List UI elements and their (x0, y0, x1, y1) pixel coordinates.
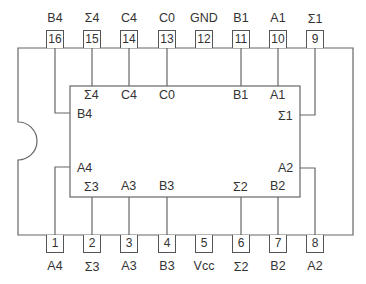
pin-6-label: Σ2 (221, 260, 261, 274)
inner-label-b2: B2 (270, 179, 285, 193)
pin-5: 5 (195, 235, 213, 253)
pin-14-label: C4 (109, 11, 149, 25)
pin-15-label: Σ4 (72, 11, 112, 25)
pin-12-label: GND (184, 11, 224, 25)
pin-6: 6 (232, 235, 250, 253)
inner-label-sigma1: Σ1 (278, 109, 293, 123)
pin-11-label: B1 (221, 11, 261, 25)
inner-box (70, 86, 300, 197)
inner-label-b4: B4 (77, 107, 92, 121)
pin-1-label: A4 (35, 259, 75, 273)
inner-label-a2: A2 (278, 161, 293, 175)
pin-3: 3 (120, 235, 138, 253)
inner-label-c4: C4 (121, 88, 137, 102)
inner-label-a4: A4 (77, 161, 92, 175)
inner-label-a3: A3 (121, 179, 136, 193)
pin-13-label: C0 (147, 11, 187, 25)
inner-label-sigma3: Σ3 (84, 180, 99, 194)
pin-5-label: Vcc (184, 259, 224, 273)
inner-label-a1: A1 (270, 88, 285, 102)
pin-15: 15 (83, 30, 101, 48)
pin-13: 13 (158, 30, 176, 48)
pin-8-label: A2 (295, 259, 335, 273)
inner-label-b1: B1 (233, 88, 248, 102)
pin-8: 8 (306, 235, 324, 253)
pin-9: 9 (306, 30, 324, 48)
pin-14: 14 (120, 30, 138, 48)
package-outline (18, 48, 353, 235)
inner-label-b3: B3 (159, 179, 174, 193)
pin-4-label: B3 (147, 259, 187, 273)
pin-2-label: Σ3 (72, 260, 112, 274)
inner-label-sigma4: Σ4 (84, 88, 99, 102)
pin-16-label: B4 (35, 11, 75, 25)
pin-10: 10 (269, 30, 287, 48)
pin-3-label: A3 (109, 259, 149, 273)
pin-2: 2 (83, 235, 101, 253)
inner-label-c0: C0 (159, 88, 175, 102)
pin-7: 7 (269, 235, 287, 253)
pin-10-label: A1 (258, 11, 298, 25)
pin-7-label: B2 (258, 259, 298, 273)
pin-4: 4 (158, 235, 176, 253)
inner-label-sigma2: Σ2 (233, 180, 248, 194)
pin-12: 12 (195, 30, 213, 48)
pin-1: 1 (46, 235, 64, 253)
pin-11: 11 (232, 30, 250, 48)
pin-9-label: Σ1 (295, 12, 335, 26)
pin-16: 16 (46, 30, 64, 48)
